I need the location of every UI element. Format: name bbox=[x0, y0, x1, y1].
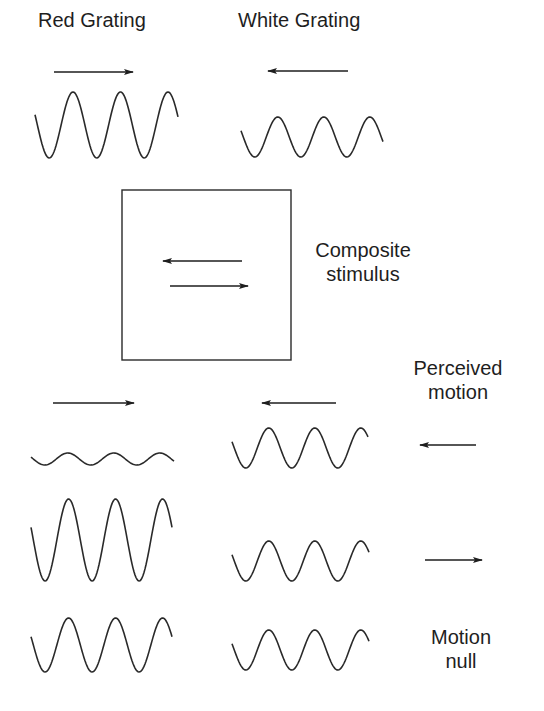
test-rows bbox=[31, 403, 482, 672]
row-perceived-left bbox=[31, 403, 476, 468]
red-grating-wave bbox=[35, 92, 178, 158]
white-test-wave bbox=[232, 541, 369, 581]
white-test-wave bbox=[232, 428, 368, 468]
row-perceived-right bbox=[31, 499, 482, 581]
red-test-wave bbox=[31, 453, 174, 465]
composite-frame bbox=[122, 190, 291, 360]
top-gratings bbox=[35, 71, 383, 158]
composite-stimulus-box bbox=[122, 190, 291, 360]
diagram-canvas bbox=[0, 0, 544, 711]
white-test-wave bbox=[232, 630, 369, 670]
white-grating-wave bbox=[241, 117, 383, 157]
row-motion-null bbox=[31, 618, 369, 672]
red-test-wave bbox=[31, 499, 172, 581]
red-test-wave bbox=[31, 618, 172, 672]
